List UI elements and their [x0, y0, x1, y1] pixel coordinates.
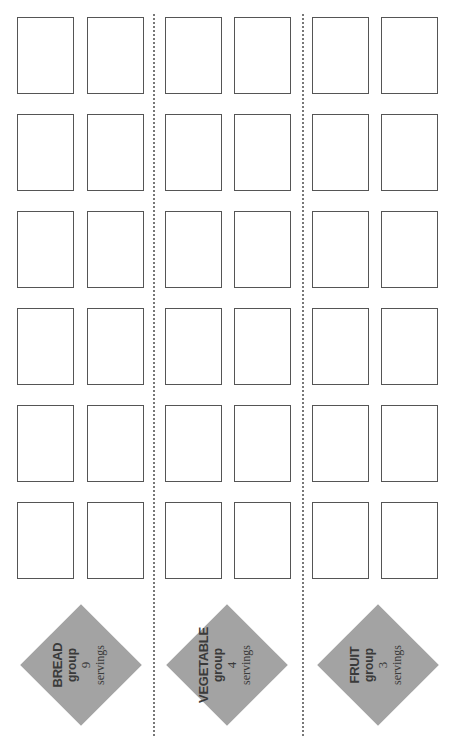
- serving-box[interactable]: [87, 17, 144, 94]
- serving-box[interactable]: [87, 502, 144, 579]
- vegetable-column: VEGETABLE group 4 servings: [154, 0, 303, 736]
- group-word: group: [362, 605, 376, 725]
- serving-box[interactable]: [234, 17, 291, 94]
- serving-box[interactable]: [17, 308, 74, 385]
- servings-count: 3: [376, 605, 390, 725]
- serving-box[interactable]: [87, 211, 144, 288]
- group-label: BREAD group 9 servings: [51, 605, 111, 725]
- serving-box[interactable]: [17, 405, 74, 482]
- serving-box[interactable]: [17, 211, 74, 288]
- group-name: FRUIT: [348, 605, 362, 725]
- servings-word: servings: [390, 605, 404, 725]
- group-label: VEGETABLE group 4 servings: [197, 605, 257, 725]
- serving-box[interactable]: [381, 502, 438, 579]
- serving-box[interactable]: [381, 308, 438, 385]
- group-word: group: [65, 605, 79, 725]
- serving-box[interactable]: [312, 308, 369, 385]
- serving-box[interactable]: [165, 502, 222, 579]
- servings-count: 9: [79, 605, 93, 725]
- servings-count: 4: [225, 605, 239, 725]
- group-word: group: [211, 605, 225, 725]
- serving-box[interactable]: [234, 308, 291, 385]
- serving-box[interactable]: [234, 502, 291, 579]
- serving-box[interactable]: [165, 17, 222, 94]
- servings-word: servings: [93, 605, 107, 725]
- serving-box[interactable]: [381, 211, 438, 288]
- serving-box[interactable]: [381, 405, 438, 482]
- serving-box[interactable]: [312, 405, 369, 482]
- serving-box[interactable]: [381, 114, 438, 191]
- serving-box[interactable]: [87, 114, 144, 191]
- serving-box[interactable]: [165, 308, 222, 385]
- serving-box[interactable]: [165, 114, 222, 191]
- serving-box[interactable]: [312, 211, 369, 288]
- serving-box[interactable]: [165, 405, 222, 482]
- serving-box[interactable]: [17, 114, 74, 191]
- group-name: BREAD: [51, 605, 65, 725]
- serving-box[interactable]: [87, 308, 144, 385]
- group-name: VEGETABLE: [197, 605, 211, 725]
- bread-column: BREAD group 9 servings: [0, 0, 153, 736]
- serving-box[interactable]: [17, 17, 74, 94]
- serving-box[interactable]: [234, 211, 291, 288]
- serving-box[interactable]: [87, 405, 144, 482]
- serving-box[interactable]: [17, 502, 74, 579]
- serving-box[interactable]: [234, 114, 291, 191]
- fruit-column: FRUIT group 3 servings: [303, 0, 459, 736]
- serving-box[interactable]: [312, 114, 369, 191]
- serving-box[interactable]: [312, 17, 369, 94]
- group-label: FRUIT group 3 servings: [348, 605, 408, 725]
- servings-word: servings: [239, 605, 253, 725]
- serving-box[interactable]: [312, 502, 369, 579]
- serving-box[interactable]: [165, 211, 222, 288]
- serving-box[interactable]: [381, 17, 438, 94]
- serving-box[interactable]: [234, 405, 291, 482]
